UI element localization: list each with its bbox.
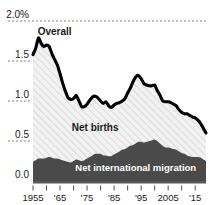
y-axis-tick-label: 0.5 xyxy=(15,129,29,140)
x-axis-ticks xyxy=(33,186,195,191)
series-label-overall: Overall xyxy=(38,26,72,37)
x-axis-labels: 1955'65'75'85'952005'15 xyxy=(22,192,201,203)
y-axis-tick-label: 0.0 xyxy=(15,169,29,180)
y-axis-tick-label: 1.0 xyxy=(15,89,29,100)
y-axis-tick-label: 2.0% xyxy=(6,9,29,20)
x-axis-tick-label: '85 xyxy=(108,192,120,203)
x-axis-tick-label: '15 xyxy=(189,192,201,203)
y-axis-tick-label: 1.5 xyxy=(15,49,29,60)
x-axis-tick-label: 2005 xyxy=(158,192,179,203)
population-growth-chart: 2.0%1.51.00.50.0 1955'65'75'85'952005'15… xyxy=(0,0,209,205)
x-axis-tick-label: '65 xyxy=(54,192,66,203)
series-label-net_migration: Net international migration xyxy=(75,162,196,173)
x-axis-tick-label: '95 xyxy=(135,192,147,203)
y-axis-labels: 2.0%1.51.00.50.0 xyxy=(6,9,29,180)
x-axis-tick-label: 1955 xyxy=(22,192,43,203)
series-label-net_births: Net births xyxy=(72,122,119,133)
x-axis-tick-label: '75 xyxy=(81,192,93,203)
chart-canvas: 2.0%1.51.00.50.0 1955'65'75'85'952005'15… xyxy=(0,0,209,205)
